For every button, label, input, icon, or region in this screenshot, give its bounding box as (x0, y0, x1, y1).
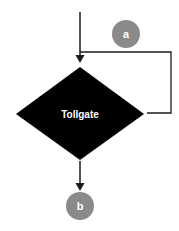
tollgate-decision: Tollgate (16, 67, 144, 160)
connector-a: a (112, 20, 140, 48)
outgoing-arrowhead-icon (76, 183, 85, 191)
tollgate-flowchart: a Tollgate b (0, 0, 179, 231)
connector-b-label: b (77, 200, 84, 212)
incoming-arrowhead-icon (76, 55, 85, 63)
connector-a-label: a (123, 28, 130, 40)
connector-b: b (66, 192, 94, 220)
tollgate-label: Tollgate (61, 109, 99, 120)
